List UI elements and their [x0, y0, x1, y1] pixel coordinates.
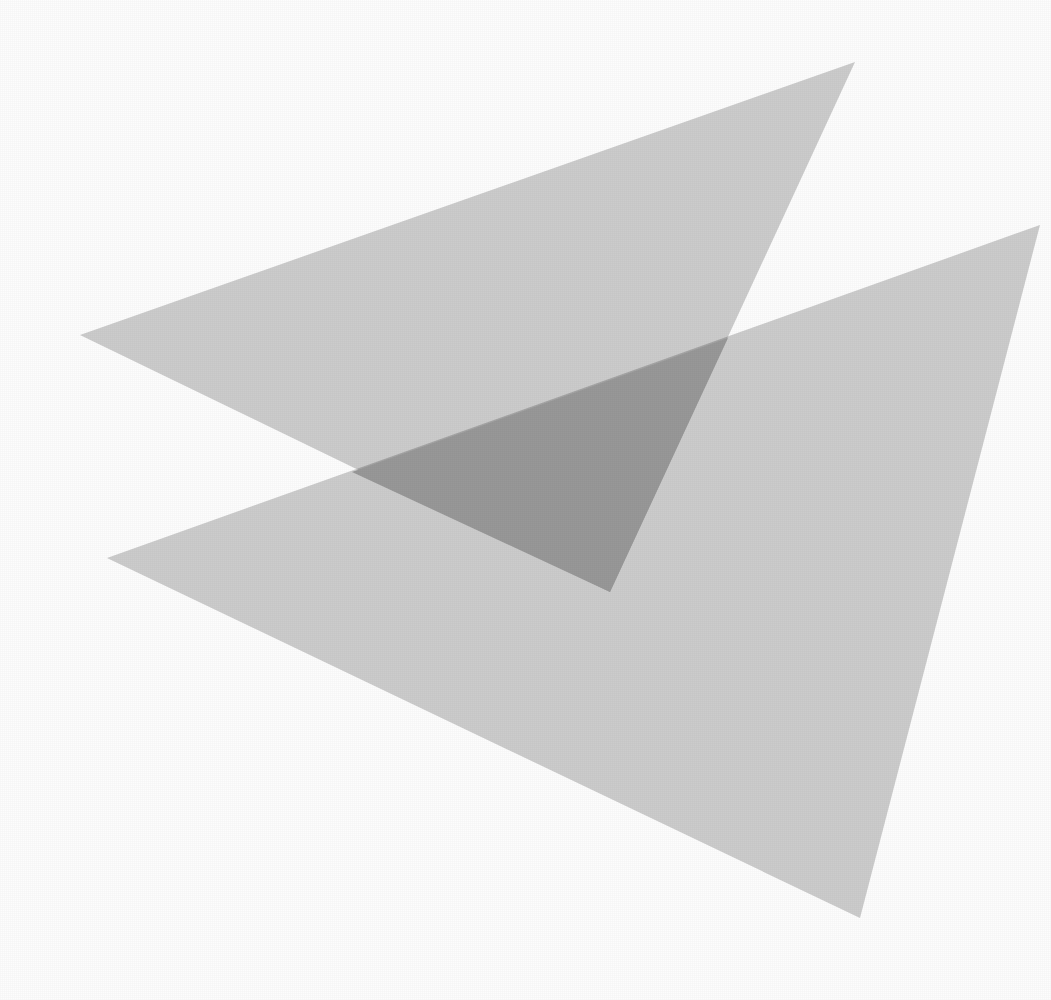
artwork-canvas: [0, 0, 1051, 1000]
geometric-artwork-svg: [0, 0, 1051, 1000]
